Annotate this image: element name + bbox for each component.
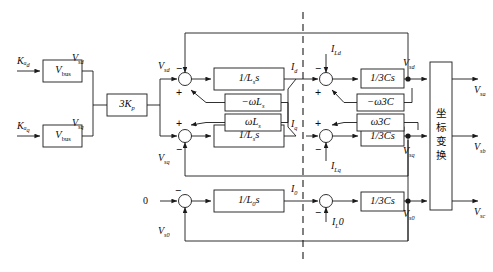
- label-vs0-feedback: Vs0: [158, 226, 170, 238]
- label-transform-char-2: 变: [433, 136, 449, 147]
- wire-vsd-tap-negcoupl: [404, 88, 412, 103]
- wire-negcoupl-to-cap-d: [332, 90, 357, 103]
- wire-gain-split-d: [160, 79, 177, 105]
- sign-sum-q-minus: −: [176, 144, 182, 155]
- sum-junction-q: [179, 130, 192, 143]
- sign-cap-q-plus: +: [315, 118, 321, 129]
- label-vbus-top: Vbus: [50, 65, 76, 78]
- label-il0: IL0: [332, 217, 344, 229]
- wire-negcoupl-to-sum-d: [191, 90, 225, 103]
- label-vs0-node: Vs0: [403, 209, 415, 221]
- label-coupling-pos-wls: ωLs: [225, 117, 281, 130]
- label-transform-char-3: 换: [433, 150, 449, 161]
- sign-cap-zero-minus: −: [315, 207, 321, 218]
- sum-junction-cap-d: [320, 73, 333, 86]
- label-iq: Iq: [291, 119, 297, 131]
- wire-vsq-tap-poscoupl: [404, 123, 418, 131]
- sum-junction-cap-zero: [320, 195, 333, 208]
- label-transform-char-1: 标: [433, 122, 449, 133]
- wire-gain-split-q: [160, 105, 177, 136]
- label-coupling-pos-w3c: ω3C: [357, 117, 404, 128]
- label-kq: Kₐq: [17, 121, 30, 133]
- sum-junction-d: [179, 73, 192, 86]
- label-coupling-neg-w3c: −ω3C: [357, 97, 404, 108]
- node-vsd: [405, 76, 410, 81]
- label-vsd-feedback: Vsd: [158, 61, 170, 73]
- sign-sum-q-plus: +: [176, 118, 182, 129]
- sign-cap-d-minus: −: [315, 63, 321, 74]
- label-ilq: ILq: [331, 161, 341, 173]
- label-i0: I0: [291, 184, 297, 196]
- label-ild: ILd: [331, 44, 341, 56]
- label-inductor-q: 1/Lss: [214, 130, 284, 143]
- sign-sum-d-minus: −: [176, 63, 182, 74]
- label-coupling-neg-wls: −ωLs: [225, 97, 281, 110]
- label-transform-char-0: 坐: [433, 108, 449, 119]
- node-vsq: [405, 133, 410, 138]
- sign-cap-d-plus: +: [315, 87, 321, 98]
- label-vbus-bot: Vbus: [50, 130, 76, 143]
- sum-junction-cap-q: [320, 130, 333, 143]
- sum-junction-zero: [179, 195, 192, 208]
- label-vsd-node: Vsd: [403, 58, 415, 70]
- wire-poscoupl-to-cap-q: [332, 123, 357, 126]
- label-cap-d: 1/3Cs: [361, 73, 404, 84]
- label-zero-input: 0: [143, 196, 148, 206]
- sign-sum-zero-minus: −: [175, 185, 181, 196]
- label-vsq-node: Vsq: [403, 146, 415, 158]
- label-output-vsa: Vsa: [474, 85, 486, 97]
- label-output-vsb: Vsb: [474, 142, 486, 154]
- label-vsq-ref: Vsq: [72, 118, 84, 130]
- sign-sum-d-plus: +: [176, 87, 182, 98]
- label-gain-3kp: 3Kp: [113, 99, 141, 112]
- label-kd: Kₐd: [17, 56, 30, 68]
- label-cap-zero: 1/3Cs: [361, 196, 404, 207]
- label-vsd-ref: Vsd: [72, 53, 84, 65]
- label-cap-q: 1/3Cs: [361, 131, 404, 142]
- label-inductor-d: 1/Lss: [214, 73, 284, 86]
- label-vsq-feedback: Vsq: [158, 153, 170, 165]
- sign-cap-q-minus: −: [315, 144, 321, 155]
- block-diagram-canvas: Kₐd Kₐq 0 Vbus Vbus Vsd Vsq 3Kp Vsd Vsq …: [0, 0, 493, 272]
- label-inductor-zero: 1/L0s: [214, 195, 284, 208]
- label-id: Id: [291, 62, 297, 74]
- label-output-vsc: Vsc: [474, 207, 485, 219]
